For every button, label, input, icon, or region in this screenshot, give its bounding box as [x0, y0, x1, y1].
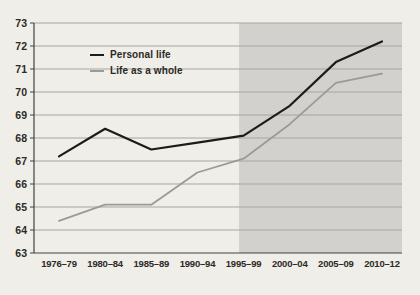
x-axis-label-4: 1995–99	[226, 258, 262, 269]
x-axis-label-7: 2010–12	[364, 258, 400, 269]
x-axis-label-2: 1985–89	[133, 258, 169, 269]
life-as-a-whole-line-swatch	[90, 70, 104, 72]
x-axis-label-3: 1990–94	[180, 258, 217, 269]
legend-label-personal-life: Personal life	[110, 49, 171, 60]
line-chart-figure: 63646566676869707172731976–791980–841985…	[0, 0, 420, 295]
legend-item-personal-life: Personal life	[90, 49, 183, 60]
y-axis-label-64: 64	[15, 224, 27, 236]
y-axis-label-63: 63	[15, 247, 27, 259]
x-axis-label-1: 1980–84	[87, 258, 124, 269]
personal-life-line-swatch	[90, 54, 104, 56]
legend-label-life-as-a-whole: Life as a whole	[110, 65, 183, 76]
y-axis-label-72: 72	[15, 40, 27, 52]
y-axis-label-68: 68	[15, 132, 27, 144]
legend-item-life-as-a-whole: Life as a whole	[90, 65, 183, 76]
x-axis-label-6: 2005–09	[318, 258, 354, 269]
y-axis-label-69: 69	[15, 109, 27, 121]
y-axis-label-73: 73	[15, 17, 27, 29]
y-axis-label-66: 66	[15, 178, 27, 190]
y-axis-label-70: 70	[15, 86, 27, 98]
y-axis-label-65: 65	[15, 201, 27, 213]
legend: Personal life Life as a whole	[90, 49, 183, 76]
x-axis-label-5: 2000–04	[272, 258, 309, 269]
y-axis-label-71: 71	[15, 63, 27, 75]
y-axis-label-67: 67	[15, 155, 27, 167]
x-axis-label-0: 1976–79	[41, 258, 77, 269]
chart-canvas: 63646566676869707172731976–791980–841985…	[0, 0, 420, 295]
